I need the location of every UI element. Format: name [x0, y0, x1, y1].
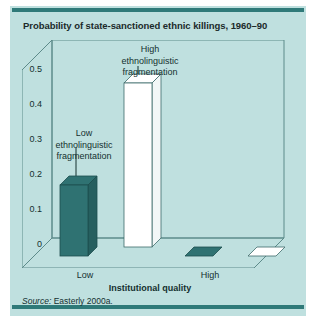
- y-tick-0.1: 0.1: [18, 205, 42, 214]
- x-axis-title: Institutional quality: [60, 283, 240, 293]
- annotation-high-line-2: ethnolinguistic: [95, 56, 205, 68]
- x-tick-high: High: [187, 270, 233, 280]
- annotation-high-fragmentation: High ethnolinguistic fragmentation: [95, 44, 205, 79]
- bar-low-quality-low-fragmentation: [60, 176, 97, 256]
- y-tick-0: 0: [18, 240, 42, 249]
- y-tick-0.5: 0.5: [18, 65, 42, 74]
- annotation-low-line-1: Low: [34, 128, 134, 140]
- annotation-high-line-1: High: [95, 44, 205, 56]
- annotation-low-line-2: ethnolinguistic: [34, 140, 134, 152]
- y-tick-0.4: 0.4: [18, 100, 42, 109]
- annotation-low-fragmentation: Low ethnolinguistic fragmentation: [34, 128, 134, 163]
- source-label: Source:: [22, 296, 51, 306]
- source-note: Source: Easterly 2000a.: [22, 296, 113, 306]
- source-value: Easterly 2000a.: [51, 296, 112, 306]
- y-tick-0.2: 0.2: [18, 170, 42, 179]
- figure-container: Probability of state-sanctioned ethnic k…: [0, 0, 314, 322]
- x-tick-low: Low: [62, 270, 108, 280]
- annotation-high-line-3: fragmentation: [95, 67, 205, 79]
- bar-high-quality-low-fragmentation: [185, 247, 222, 256]
- figure-title: Probability of state-sanctioned ethnic k…: [23, 20, 301, 32]
- top-rule: [12, 8, 304, 12]
- annotation-low-line-3: fragmentation: [34, 151, 134, 163]
- bar-high-quality-high-fragmentation: [248, 247, 285, 256]
